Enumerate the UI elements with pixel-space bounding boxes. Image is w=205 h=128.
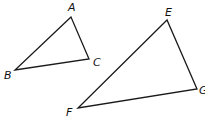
triangle-abc bbox=[15, 17, 89, 70]
vertex-label-b: B bbox=[4, 69, 12, 82]
vertex-label-g: G bbox=[199, 84, 205, 97]
vertex-label-a: A bbox=[67, 1, 76, 14]
triangles-diagram: A B C E F G bbox=[0, 0, 205, 128]
vertex-label-f: F bbox=[66, 106, 73, 119]
vertex-label-c: C bbox=[93, 56, 101, 69]
vertex-label-e: E bbox=[165, 6, 172, 19]
